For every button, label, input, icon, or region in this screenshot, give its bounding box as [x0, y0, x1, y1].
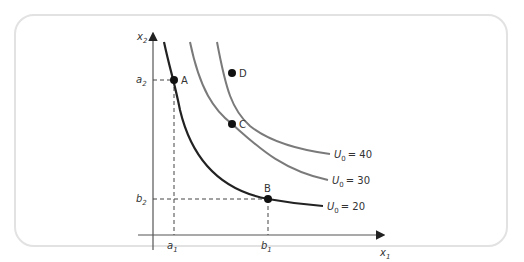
point-a [170, 76, 178, 84]
tick-a1: a1 [167, 240, 178, 254]
point-c-label: C [239, 119, 246, 130]
point-d-label: D [239, 68, 247, 79]
point-b [264, 195, 272, 203]
point-d [228, 69, 236, 77]
y-axis-label: x2 [136, 31, 148, 45]
label-u0-40: U0= 40 [334, 149, 372, 163]
curve-u0-30 [190, 42, 328, 180]
label-u0-20: U0= 20 [327, 201, 365, 215]
indifference-curve-diagram: x2 x1 U0= 40 U0= 30 U0= 20 A B C D a2 b2… [0, 0, 524, 262]
tick-b1: b1 [261, 240, 272, 254]
point-a-label: A [181, 75, 188, 86]
point-b-label: B [264, 183, 271, 194]
curve-u0-40 [217, 42, 330, 154]
tick-a2: a2 [136, 74, 147, 88]
point-c [228, 120, 236, 128]
x-axis-label: x1 [379, 247, 390, 261]
label-u0-30: U0= 30 [332, 175, 370, 189]
tick-b2: b2 [136, 193, 147, 207]
